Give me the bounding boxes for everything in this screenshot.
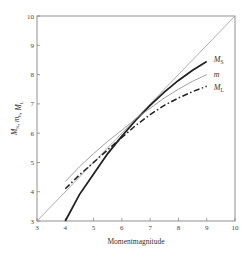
y-tick-label: 10: [27, 13, 35, 21]
x-tick-label: 10: [232, 224, 240, 232]
y-tick-label: 4: [31, 188, 35, 196]
legend-label-m: m: [214, 70, 220, 79]
magnitude-comparison-chart: 345678910345678910 MSmML Momentmagnitude…: [0, 0, 247, 256]
x-tick-label: 7: [148, 224, 152, 232]
x-tick-label: 8: [177, 224, 181, 232]
y-axis-title: MS, mb, ML: [10, 101, 24, 136]
y-tick-label: 9: [31, 42, 35, 50]
x-tick-label: 4: [64, 224, 68, 232]
x-tick-label: 3: [35, 224, 39, 232]
x-tick-label: 5: [92, 224, 96, 232]
x-tick-label: 6: [120, 224, 124, 232]
legend-label-ms: MS: [213, 55, 224, 65]
legend-label-ml: ML: [213, 83, 225, 93]
y-tick-label: 8: [31, 71, 35, 79]
x-tick-label: 9: [205, 224, 209, 232]
series-m-line: [65, 75, 206, 182]
x-axis-title: Momentmagnitude: [107, 237, 165, 246]
y-tick-label: 7: [31, 100, 35, 108]
y-tick-label: 3: [31, 218, 35, 226]
y-tick-label: 6: [31, 130, 35, 138]
y-tick-label: 5: [31, 159, 35, 167]
series-ml-line: [65, 86, 206, 189]
